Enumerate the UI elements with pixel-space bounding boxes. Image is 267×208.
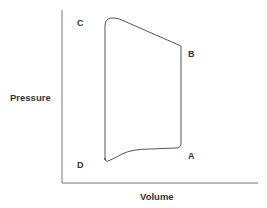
y-axis-title: Pressure (10, 92, 51, 103)
point-label-a: A (188, 151, 195, 161)
point-label-c: C (77, 18, 84, 28)
pv-diagram: C B A D Pressure Volume (0, 0, 267, 208)
pv-loop (105, 18, 181, 161)
point-label-d: D (77, 160, 84, 170)
point-label-b: B (188, 49, 195, 59)
x-axis-title: Volume (140, 191, 174, 202)
